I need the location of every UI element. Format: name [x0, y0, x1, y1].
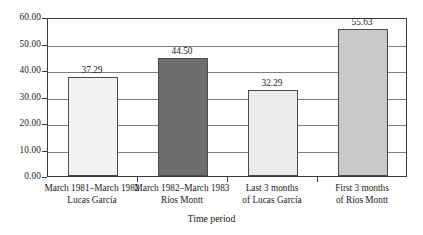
- plot-area: [47, 18, 407, 177]
- x-axis-title: Time period: [0, 214, 423, 224]
- x-tick-mark: [317, 177, 318, 182]
- x-category-label-line: of Ríos Montt: [302, 195, 422, 207]
- bar: [248, 90, 298, 176]
- bar-value-label: 44.50: [142, 47, 222, 56]
- x-category-label: First 3 monthsof Ríos Montt: [302, 183, 422, 206]
- bar: [158, 58, 208, 176]
- y-tick-mark: [42, 177, 47, 178]
- bar-value-label: 32.29: [232, 79, 312, 88]
- bar-value-label: 37.29: [52, 66, 132, 75]
- x-category-label-line: First 3 months: [302, 183, 422, 195]
- y-tick-label: 60.00: [20, 13, 41, 22]
- bar: [68, 77, 118, 176]
- y-tick-label: 30.00: [20, 93, 41, 102]
- x-tick-mark: [137, 177, 138, 182]
- y-tick-label: 40.00: [20, 66, 41, 75]
- y-tick-label: 20.00: [20, 119, 41, 128]
- bar: [338, 29, 388, 176]
- x-tick-mark: [227, 177, 228, 182]
- bar-chart: 0.0010.0020.0030.0040.0050.0060.00 March…: [0, 0, 423, 235]
- y-tick-label: 50.00: [20, 40, 41, 49]
- y-tick-label: 10.00: [20, 146, 41, 155]
- bar-value-label: 55.63: [322, 18, 402, 27]
- y-tick-label: 0.00: [24, 172, 41, 181]
